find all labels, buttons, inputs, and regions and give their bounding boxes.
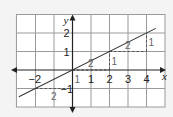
rise-label: 1 [112, 56, 118, 67]
y-tick-label: −1 [61, 83, 74, 95]
rise-label: 1 [75, 74, 81, 85]
run-label: 2 [125, 40, 131, 51]
run-label: 2 [51, 91, 57, 102]
run-label: 2 [88, 58, 94, 69]
y-tick-label: 1 [64, 46, 70, 58]
x-tick-label: −2 [29, 73, 42, 85]
x-tick-label: 1 [88, 73, 94, 85]
y-axis-label: y [63, 14, 69, 26]
coordinate-graph: 212121−21234−112xy [0, 0, 173, 117]
x-tick-label: 3 [125, 73, 131, 85]
x-axis-arrow-left-icon [11, 67, 17, 73]
y-tick-label: 2 [64, 27, 70, 39]
y-axis-arrow-down-icon [70, 107, 76, 113]
x-tick-label: 2 [107, 73, 113, 85]
x-axis-label: x [161, 70, 167, 82]
x-tick-label: 4 [144, 73, 150, 85]
rise-label: 1 [149, 37, 155, 48]
